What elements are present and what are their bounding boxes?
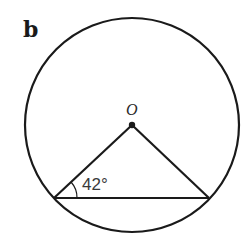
circle-diagram: O 42° xyxy=(0,0,250,240)
angle-label: 42° xyxy=(82,175,108,194)
center-point xyxy=(129,122,135,128)
angle-arc xyxy=(71,182,77,198)
center-label: O xyxy=(126,101,138,118)
radius-right xyxy=(132,125,209,198)
